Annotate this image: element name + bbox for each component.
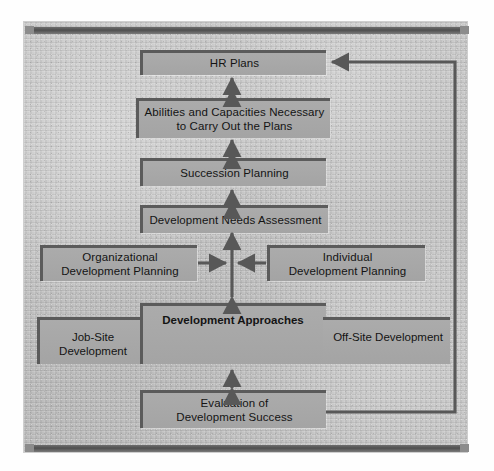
connector-layer [0,0,494,471]
diagram-canvas: HR Plans Abilities and Capacities Necess… [0,0,494,471]
edge-evaluation-feedback-to-hrplans [326,62,455,412]
